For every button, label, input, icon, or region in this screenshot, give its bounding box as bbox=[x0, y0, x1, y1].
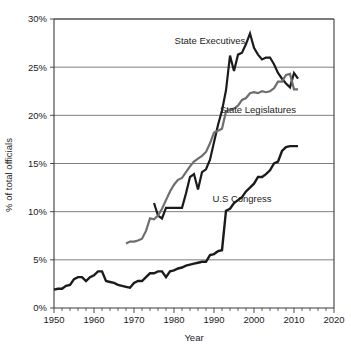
chart-container: 0%5%10%15%20%25%30% 19501960197019801990… bbox=[0, 0, 351, 347]
x-tick-label: 1960 bbox=[83, 314, 104, 325]
x-tick-label: 2010 bbox=[283, 314, 304, 325]
y-tick-label: 0% bbox=[33, 302, 47, 313]
x-axis-tick-labels: 19501960197019801990200020102020 bbox=[43, 314, 344, 325]
series-label-state-executives: State Executives bbox=[175, 35, 246, 46]
data-series bbox=[54, 33, 298, 289]
x-axis-title: Year bbox=[184, 332, 203, 343]
y-tick-label: 30% bbox=[28, 13, 48, 24]
x-tick-label: 2020 bbox=[323, 314, 344, 325]
y-tick-label: 15% bbox=[28, 158, 48, 169]
x-tick-label: 1980 bbox=[163, 314, 184, 325]
y-tick-label: 10% bbox=[28, 206, 48, 217]
x-tick-label: 1970 bbox=[123, 314, 144, 325]
series-annotations: State ExecutivesState LegislaturesU.S Co… bbox=[175, 35, 297, 204]
y-axis-tick-labels: 0%5%10%15%20%25%30% bbox=[28, 13, 48, 313]
series-label-state-legislatures: State Legislatures bbox=[220, 104, 296, 115]
x-axis-ticks bbox=[54, 308, 334, 313]
y-tick-label: 25% bbox=[28, 62, 48, 73]
line-chart: 0%5%10%15%20%25%30% 19501960197019801990… bbox=[0, 0, 351, 347]
series-label-u-s-congress: U.S Congress bbox=[212, 193, 271, 204]
series-line-u-s-congress bbox=[54, 146, 298, 290]
x-tick-label: 1990 bbox=[203, 314, 224, 325]
y-axis-title: % of total officials bbox=[3, 138, 14, 212]
y-tick-label: 5% bbox=[33, 254, 47, 265]
gridlines bbox=[54, 19, 334, 260]
x-tick-label: 1950 bbox=[43, 314, 64, 325]
x-tick-label: 2000 bbox=[243, 314, 264, 325]
y-axis-ticks bbox=[50, 19, 54, 308]
series-line-state-legislatures bbox=[126, 74, 298, 244]
y-tick-label: 20% bbox=[28, 110, 48, 121]
series-line-state-executives bbox=[154, 33, 298, 218]
